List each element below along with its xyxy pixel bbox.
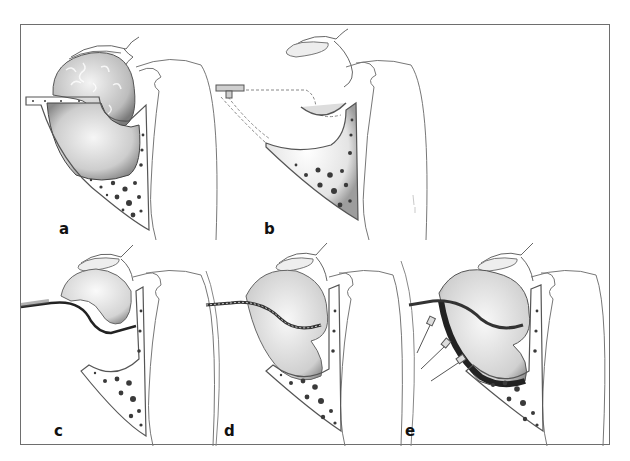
panel-label-c: c: [54, 424, 63, 439]
panel-d-illustration: [201, 241, 401, 446]
panel-e-illustration: [401, 241, 611, 446]
panel-e: e: [401, 241, 611, 446]
panel-b-illustration: [206, 25, 436, 240]
panel-label-a: a: [59, 222, 69, 237]
panel-c-illustration: [21, 241, 221, 446]
panel-c: c: [21, 241, 221, 446]
figure-frame: a: [20, 24, 610, 445]
panel-d: d: [201, 241, 401, 446]
panel-label-d: d: [224, 424, 235, 439]
panel-label-e: e: [405, 424, 415, 439]
panel-a-illustration: [21, 25, 221, 240]
panel-a: a: [21, 25, 221, 240]
panel-label-b: b: [264, 222, 275, 237]
panel-b: b: [206, 25, 436, 240]
